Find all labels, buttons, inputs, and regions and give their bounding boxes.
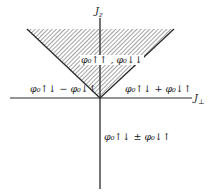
phase-diagram <box>0 0 215 194</box>
horizontal-axis-label: J⊥ <box>194 93 205 106</box>
top-region-label: φ₀↑↑ , φ₀↓↓ <box>80 55 144 65</box>
right-region-label: φ₀↑↓ + φ₀↓↑ <box>125 84 192 94</box>
bottom-region-label: φ₀↑↓ ± φ₀↓↑ <box>104 132 171 142</box>
vertical-axis-label: Jz <box>95 6 103 19</box>
axis-label-sub: z <box>99 11 103 19</box>
left-region-label: φ₀↑↓ − φ₀↓↑ <box>30 84 97 94</box>
axis-label-sub: ⊥ <box>198 98 205 106</box>
